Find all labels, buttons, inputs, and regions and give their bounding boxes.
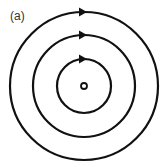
- source-point: [81, 83, 87, 89]
- inner-field-line: [57, 59, 111, 113]
- middle-field-line: [33, 35, 135, 137]
- concentric-field-diagram: (a): [0, 0, 167, 167]
- inner-arrow-icon: [79, 55, 87, 64]
- panel-label: (a): [10, 9, 25, 23]
- outer-arrow-icon: [79, 8, 87, 17]
- middle-arrow-icon: [79, 31, 87, 40]
